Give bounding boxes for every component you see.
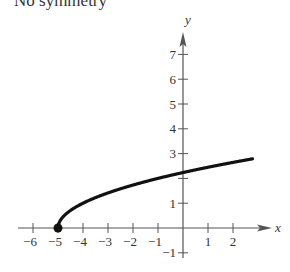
x-tick-label: −4 xyxy=(73,234,87,249)
x-tick-label: −5 xyxy=(48,234,62,249)
x-tick-label: −2 xyxy=(123,234,137,249)
x-tick-label: −3 xyxy=(98,234,112,249)
y-tick-label: 4 xyxy=(170,121,177,136)
function-graph: −6−5−4−3−2−112−1134567 x y xyxy=(0,0,290,272)
sqrt-curve xyxy=(58,159,253,228)
y-tick-label: 7 xyxy=(170,47,177,62)
x-tick-label: 1 xyxy=(205,234,212,249)
y-axis-label: y xyxy=(183,12,191,27)
tick-marks xyxy=(33,54,233,252)
y-tick-label: 5 xyxy=(170,97,177,112)
x-tick-label: 2 xyxy=(230,234,237,249)
start-point-marker xyxy=(54,224,63,233)
y-tick-label: −1 xyxy=(162,245,176,260)
y-tick-label: 3 xyxy=(170,146,177,161)
x-axis-label: x xyxy=(274,220,281,235)
y-tick-label: 1 xyxy=(170,196,177,211)
x-tick-label: −6 xyxy=(23,234,37,249)
x-tick-label: −1 xyxy=(148,234,162,249)
y-tick-label: 6 xyxy=(170,72,177,87)
